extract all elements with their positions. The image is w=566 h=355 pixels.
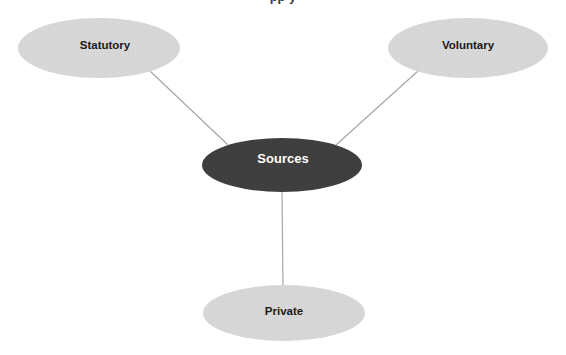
sources-diagram: Statutory Voluntary Private Sources [0,0,566,355]
node-private[interactable]: Private [203,285,365,341]
node-statutory[interactable]: Statutory [18,18,180,78]
sources-label: Sources [257,151,308,166]
connector-statutory-to-sources [150,71,228,145]
node-sources-center[interactable]: Sources [202,138,362,192]
node-voluntary[interactable]: Voluntary [388,18,548,78]
diagram-canvas: pp y Statutory Voluntary [0,0,566,355]
voluntary-label: Voluntary [442,39,495,51]
private-label: Private [265,305,303,317]
connector-sources-to-private [282,192,283,286]
connector-voluntary-to-sources [336,71,418,145]
statutory-label: Statutory [80,39,131,51]
